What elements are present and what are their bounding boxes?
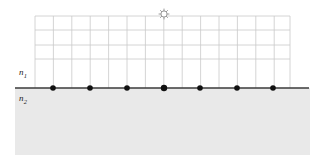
interface-point: [161, 85, 167, 91]
grid-horizontal-lines: [35, 16, 290, 59]
lower-medium-texture: [15, 88, 310, 155]
optics-diagram: n1 n2: [0, 0, 325, 161]
upper-medium-label: n1: [19, 67, 27, 79]
point-light-source-icon: [159, 9, 170, 20]
interface-point: [50, 85, 56, 91]
grid-vertical-lines: [35, 10, 290, 88]
interface-point: [197, 85, 203, 91]
interface-point: [234, 85, 240, 91]
interface-point: [270, 85, 276, 91]
lower-medium-subscript: 2: [24, 98, 27, 105]
upper-medium-subscript: 1: [24, 72, 27, 79]
interface-point: [87, 85, 93, 91]
interface-point: [124, 85, 130, 91]
lower-medium-label: n2: [19, 93, 27, 105]
diagram-canvas: [0, 0, 325, 161]
